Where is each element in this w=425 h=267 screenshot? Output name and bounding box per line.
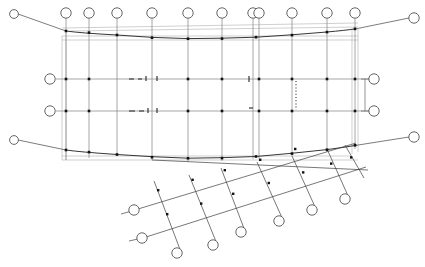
node-dot [354,78,357,81]
grid-bubble-col-8[interactable] [287,8,297,18]
node-dot [302,171,304,173]
grid-bubble-col-9[interactable] [322,8,332,18]
node-dot [268,182,270,184]
angled-rib-4 [257,162,283,220]
node-dot [354,110,357,113]
node-dot [221,37,224,40]
grid-bubble-angled-2[interactable] [137,233,147,243]
vertical-grid-lines [66,18,355,162]
node-dot [255,36,258,39]
angled-rail-1 [138,143,356,209]
node-dot [166,213,168,215]
bottom-right-leader [357,137,409,145]
node-dot [354,144,357,147]
node-dot [88,151,91,154]
grid-bubble-row-A-left[interactable] [45,74,55,84]
grid-bubble-angled-3[interactable] [172,248,182,258]
grid-bubble-bottom-right[interactable] [409,132,419,142]
slab-outline-group [62,23,358,160]
grid-bubble-top-right[interactable] [409,13,419,23]
node-dot [88,31,91,34]
grid-bubble-angled-5[interactable] [236,227,246,237]
top-bubble-group [61,8,360,18]
node-dot [259,159,261,161]
node-dot [326,148,329,151]
grid-bubble-top-left[interactable] [10,10,19,19]
bottom-edge-group [18,137,409,158]
node-dot [187,110,190,113]
right-dimension-group [361,79,369,111]
slab-band-upper [62,23,358,28]
grid-bubble-angled-7[interactable] [307,205,317,215]
node-dot [330,162,332,164]
node-dot [350,156,352,158]
grid-bubble-row-A-right[interactable] [369,74,379,84]
grid-bubble-col-3[interactable] [112,8,122,18]
node-dot [255,155,258,158]
node-dot [151,36,154,39]
node-dot [65,78,68,81]
node-dot [291,78,294,81]
grid-bubble-col-1[interactable] [61,8,71,18]
node-dot [326,31,329,34]
node-dot [191,179,193,181]
grid-bubble-angled-8[interactable] [340,194,350,204]
top-left-leader [18,14,66,31]
node-dot [291,34,294,37]
grid-bubble-col-10[interactable] [350,8,360,18]
node-dot [221,157,224,160]
node-dot [291,110,294,113]
node-dot [116,34,119,37]
column-node-group [65,28,357,160]
angled-rail-2 [146,167,366,237]
node-dot [326,110,329,113]
node-dot [88,78,91,81]
angled-rib-2 [189,175,217,244]
grid-bubble-col-2[interactable] [84,8,94,18]
node-dot [258,78,261,81]
node-dot [187,78,190,81]
structural-grid-drawing [0,0,425,267]
node-dot [116,153,119,156]
node-dot [65,30,68,33]
interior-details-group [129,76,296,113]
angled-rib-5 [292,156,316,209]
bottom-left-leader [18,140,66,150]
grid-bubble-col-6[interactable] [217,8,227,18]
node-dot [151,156,154,159]
node-dot [88,110,91,113]
grid-bubble-angled-1[interactable] [129,205,139,215]
node-dot [65,110,68,113]
node-dot [258,110,261,113]
node-dot [157,189,159,191]
grid-bubble-row-B-left[interactable] [45,106,55,116]
node-dot [291,152,294,155]
top-right-leader [356,18,409,29]
node-dot [187,37,190,40]
grid-bubble-bottom-left[interactable] [10,136,19,145]
node-dot [224,169,226,171]
node-dot [221,110,224,113]
node-dot [65,149,68,152]
node-dot [221,78,224,81]
grid-bubble-col-4[interactable] [147,8,157,18]
grid-bubble-angled-6[interactable] [274,216,284,226]
angled-rib-1 [154,181,181,252]
grid-bubble-col-5[interactable] [183,8,193,18]
node-dot [294,148,296,150]
side-bubble-group [45,74,379,116]
node-dot [232,193,234,195]
node-dot [326,78,329,81]
node-dot [187,157,190,160]
grid-bubble-angled-4[interactable] [208,240,218,250]
node-dot [354,28,357,31]
grid-bubble-row-B-right[interactable] [369,106,379,116]
grid-bubble-col-7b[interactable] [254,8,264,18]
drawing-canvas [0,0,425,267]
horizontal-grid-lines [56,79,369,111]
slab-band-upper2 [70,27,358,31]
top-edge-group [18,14,409,39]
angled-bubble-group [129,194,350,258]
node-dot [200,202,202,204]
